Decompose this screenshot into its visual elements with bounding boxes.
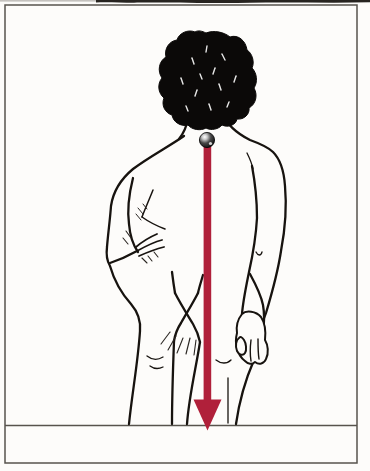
posture-plumb-line-figure [0,0,370,471]
arrow-shaft [204,146,212,402]
hair [159,31,257,130]
scanned-illustration-page [0,0,370,471]
cervical-marker-ball [199,132,214,147]
right-thumb-lobe [236,337,246,355]
right-hand [236,312,268,364]
marker-ball-glint [209,142,212,145]
